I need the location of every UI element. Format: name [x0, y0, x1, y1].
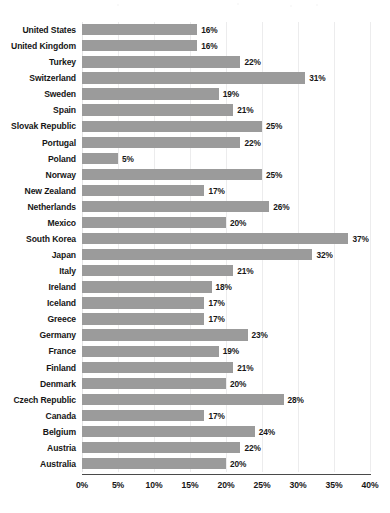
- category-label: United Kingdom: [11, 41, 76, 51]
- bar[interactable]: [82, 442, 240, 453]
- bar-value-label: 19%: [223, 89, 239, 99]
- bar-value-label: 17%: [208, 186, 224, 196]
- bar[interactable]: [82, 458, 226, 469]
- category-label: Poland: [48, 154, 76, 164]
- bar-row[interactable]: Norway25%: [82, 167, 370, 183]
- bar-row[interactable]: Portugal22%: [82, 135, 370, 151]
- category-label: Switzerland: [29, 73, 76, 83]
- bar-value-label: 26%: [273, 202, 289, 212]
- bar-row[interactable]: South Korea37%: [82, 231, 370, 247]
- bar-value-label: 22%: [244, 57, 260, 67]
- bar-value-label: 17%: [208, 314, 224, 324]
- x-tick-label: 35%: [326, 480, 343, 490]
- category-label: United States: [22, 25, 76, 35]
- bar-row[interactable]: Japan32%: [82, 247, 370, 263]
- x-tick-label: 10%: [146, 480, 163, 490]
- scan-artifact: [0, 0, 390, 14]
- category-label: Germany: [39, 330, 76, 340]
- bar-value-label: 19%: [223, 346, 239, 356]
- bar-row[interactable]: Denmark20%: [82, 376, 370, 392]
- category-label: Sweden: [44, 89, 76, 99]
- bar[interactable]: [82, 121, 262, 132]
- category-label: Belgium: [43, 427, 76, 437]
- bar[interactable]: [82, 169, 262, 180]
- bar[interactable]: [82, 72, 305, 83]
- bar-row[interactable]: Sweden19%: [82, 86, 370, 102]
- bar[interactable]: [82, 410, 204, 421]
- bar-row[interactable]: Poland5%: [82, 151, 370, 167]
- bar[interactable]: [82, 40, 197, 51]
- bar-row[interactable]: Germany23%: [82, 327, 370, 343]
- bar[interactable]: [82, 362, 233, 373]
- bar-value-label: 25%: [266, 170, 282, 180]
- bar-value-label: 28%: [288, 395, 304, 405]
- bar[interactable]: [82, 153, 118, 164]
- bar-row[interactable]: Turkey22%: [82, 54, 370, 70]
- x-axis-line: [82, 474, 371, 475]
- category-label: Czech Republic: [13, 395, 76, 405]
- bar-value-label: 20%: [230, 459, 246, 469]
- x-axis-tick-labels: 0%5%10%15%20%25%30%35%40%: [82, 480, 370, 496]
- category-label: South Korea: [26, 234, 76, 244]
- bar[interactable]: [82, 24, 197, 35]
- bar[interactable]: [82, 137, 240, 148]
- category-label: Netherlands: [27, 202, 76, 212]
- bar-row[interactable]: Spain21%: [82, 102, 370, 118]
- bar[interactable]: [82, 313, 204, 324]
- bar-row[interactable]: Czech Republic28%: [82, 392, 370, 408]
- bar[interactable]: [82, 346, 219, 357]
- bar-row[interactable]: Netherlands26%: [82, 199, 370, 215]
- bar[interactable]: [82, 249, 312, 260]
- bar-value-label: 17%: [208, 298, 224, 308]
- bar-row[interactable]: Mexico20%: [82, 215, 370, 231]
- bar[interactable]: [82, 217, 226, 228]
- bar-row[interactable]: Austria22%: [82, 440, 370, 456]
- category-label: Iceland: [47, 298, 76, 308]
- bar[interactable]: [82, 281, 212, 292]
- bar-row[interactable]: Greece17%: [82, 311, 370, 327]
- category-label: France: [48, 346, 76, 356]
- bar[interactable]: [82, 56, 240, 67]
- bar[interactable]: [82, 329, 248, 340]
- bar[interactable]: [82, 88, 219, 99]
- category-label: Turkey: [49, 57, 76, 67]
- bar-value-label: 21%: [237, 105, 253, 115]
- category-label: Canada: [46, 411, 76, 421]
- bar[interactable]: [82, 378, 226, 389]
- bar[interactable]: [82, 104, 233, 115]
- x-tick-label: 30%: [290, 480, 307, 490]
- bar[interactable]: [82, 201, 269, 212]
- bar-row[interactable]: Finland21%: [82, 360, 370, 376]
- bar-row[interactable]: Italy21%: [82, 263, 370, 279]
- bar-row[interactable]: Canada17%: [82, 408, 370, 424]
- bar-row[interactable]: New Zealand17%: [82, 183, 370, 199]
- bar-value-label: 18%: [216, 282, 232, 292]
- bar-row[interactable]: United States16%: [82, 22, 370, 38]
- bar-row[interactable]: Ireland18%: [82, 279, 370, 295]
- x-tick-label: 20%: [218, 480, 235, 490]
- category-label: Denmark: [40, 379, 76, 389]
- bar[interactable]: [82, 233, 348, 244]
- plot-area: United States16%United Kingdom16%Turkey2…: [82, 22, 370, 472]
- x-tick-label: 0%: [76, 480, 88, 490]
- bar-row[interactable]: Switzerland31%: [82, 70, 370, 86]
- bar[interactable]: [82, 265, 233, 276]
- category-label: New Zealand: [25, 186, 76, 196]
- bar[interactable]: [82, 185, 204, 196]
- bar-value-label: 16%: [201, 41, 217, 51]
- category-label: Austria: [47, 443, 76, 453]
- x-tick-label: 5%: [112, 480, 124, 490]
- bar-row[interactable]: France19%: [82, 343, 370, 359]
- bar[interactable]: [82, 297, 204, 308]
- bar-row[interactable]: Australia20%: [82, 456, 370, 472]
- bar-row[interactable]: Slovak Republic25%: [82, 118, 370, 134]
- bar-value-label: 17%: [208, 411, 224, 421]
- bar[interactable]: [82, 394, 284, 405]
- category-label: Mexico: [47, 218, 76, 228]
- bar-row[interactable]: United Kingdom16%: [82, 38, 370, 54]
- bar-row[interactable]: Belgium24%: [82, 424, 370, 440]
- bar-row[interactable]: Iceland17%: [82, 295, 370, 311]
- bar-value-label: 20%: [230, 379, 246, 389]
- bar-value-label: 23%: [252, 330, 268, 340]
- bar[interactable]: [82, 426, 255, 437]
